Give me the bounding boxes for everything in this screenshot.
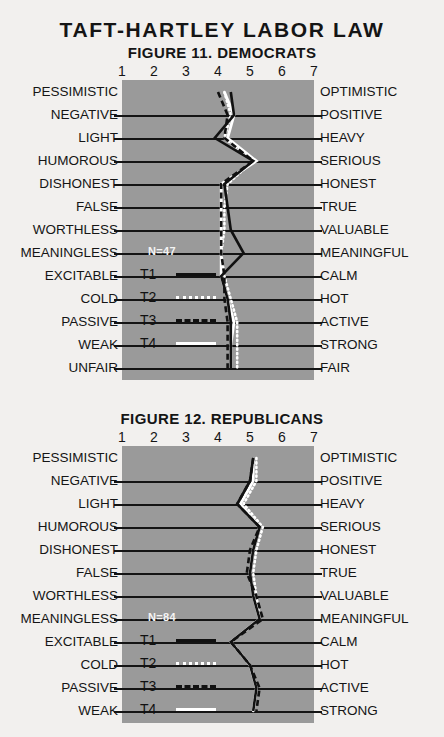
tick-left	[114, 596, 122, 598]
row-label-right: HEAVY	[320, 497, 444, 511]
row-label-left: HUMOROUS	[0, 154, 118, 168]
tick-right	[314, 642, 322, 644]
tick-left	[114, 276, 122, 278]
row-label-left: FALSE	[0, 566, 118, 580]
tick-right	[314, 115, 322, 117]
tick-left	[114, 688, 122, 690]
tick-left	[114, 665, 122, 667]
scale-number-2: 2	[150, 428, 158, 446]
row-label-right: VALUABLE	[320, 589, 444, 603]
row-label-left: DISHONEST	[0, 543, 118, 557]
row-label-right: STRONG	[320, 338, 444, 352]
tick-right	[314, 688, 322, 690]
tick-right	[314, 665, 322, 667]
row-label-left: FALSE	[0, 200, 118, 214]
plot-background: N=84T1T2T3T4	[122, 446, 314, 723]
tick-left	[114, 619, 122, 621]
tick-right	[314, 230, 322, 232]
scale-number-4: 4	[214, 62, 222, 80]
tick-left	[114, 184, 122, 186]
scale-number-1: 1	[118, 62, 126, 80]
tick-right	[314, 527, 322, 529]
tick-right	[314, 345, 322, 347]
tick-right	[314, 322, 322, 324]
row-label-right: ACTIVE	[320, 315, 444, 329]
row-label-right: HOT	[320, 292, 444, 306]
scale-number-1: 1	[118, 428, 126, 446]
row-label-left: PASSIVE	[0, 315, 118, 329]
tick-right	[314, 481, 322, 483]
row-label-right: OPTIMISTIC	[320, 85, 444, 99]
row-label-right: HOT	[320, 658, 444, 672]
row-label-left: COLD	[0, 292, 118, 306]
scale-number-5: 5	[246, 428, 254, 446]
scale-number-6: 6	[278, 62, 286, 80]
tick-left	[114, 527, 122, 529]
scale-number-3: 3	[182, 428, 190, 446]
chart-page: TAFT-HARTLEY LABOR LAW FIGURE 11. DEMOCR…	[0, 0, 444, 737]
tick-left	[114, 161, 122, 163]
tick-left	[114, 230, 122, 232]
series-lines	[122, 80, 314, 380]
figure-1-title: FIGURE 11. DEMOCRATS	[0, 44, 444, 61]
tick-right	[314, 184, 322, 186]
row-label-left: LIGHT	[0, 131, 118, 145]
row-label-left: EXCITABLE	[0, 635, 118, 649]
row-label-left: PASSIVE	[0, 681, 118, 695]
row-label-right: TRUE	[320, 566, 444, 580]
tick-right	[314, 550, 322, 552]
tick-left	[114, 504, 122, 506]
row-label-left: WEAK	[0, 704, 118, 718]
row-label-right: SERIOUS	[320, 154, 444, 168]
row-label-right: POSITIVE	[320, 474, 444, 488]
plot-background: N=47T1T2T3T4	[122, 80, 314, 380]
scale-number-5: 5	[246, 62, 254, 80]
scale-number-7: 7	[310, 428, 318, 446]
series-lines	[122, 446, 314, 723]
row-label-left: LIGHT	[0, 497, 118, 511]
tick-left	[114, 711, 122, 713]
tick-right	[314, 619, 322, 621]
tick-right	[314, 276, 322, 278]
tick-right	[314, 161, 322, 163]
tick-right	[314, 253, 322, 255]
tick-right	[314, 504, 322, 506]
tick-left	[114, 299, 122, 301]
page-title: TAFT-HARTLEY LABOR LAW	[0, 18, 444, 42]
scale-number-7: 7	[310, 62, 318, 80]
row-label-left: WORTHLESS	[0, 589, 118, 603]
row-label-left: PESSIMISTIC	[0, 451, 118, 465]
row-label-right: HONEST	[320, 543, 444, 557]
tick-left	[114, 322, 122, 324]
row-label-right: STRONG	[320, 704, 444, 718]
row-label-right: TRUE	[320, 200, 444, 214]
row-label-right: CALM	[320, 269, 444, 283]
series-line-t3	[218, 92, 253, 368]
row-label-left: COLD	[0, 658, 118, 672]
figure-2-title: FIGURE 12. REPUBLICANS	[0, 410, 444, 427]
row-label-right: HONEST	[320, 177, 444, 191]
row-label-left: NEGATIVE	[0, 474, 118, 488]
tick-left	[114, 253, 122, 255]
tick-left	[114, 573, 122, 575]
tick-left	[114, 138, 122, 140]
scale-number-6: 6	[278, 428, 286, 446]
row-label-right: FAIR	[320, 361, 444, 375]
scale-number-row: 1234567	[122, 62, 314, 80]
scale-number-row: 1234567	[122, 428, 314, 446]
row-label-left: WEAK	[0, 338, 118, 352]
row-label-right: MEANINGFUL	[320, 612, 444, 626]
tick-right	[314, 596, 322, 598]
scale-number-4: 4	[214, 428, 222, 446]
scale-number-3: 3	[182, 62, 190, 80]
row-label-right: HEAVY	[320, 131, 444, 145]
row-label-left: HUMOROUS	[0, 520, 118, 534]
row-label-right: MEANINGFUL	[320, 246, 444, 260]
row-label-left: EXCITABLE	[0, 269, 118, 283]
tick-left	[114, 345, 122, 347]
row-label-right: POSITIVE	[320, 108, 444, 122]
tick-left	[114, 368, 122, 370]
series-line-t2	[231, 458, 263, 711]
row-label-left: NEGATIVE	[0, 108, 118, 122]
row-label-left: UNFAIR	[0, 361, 118, 375]
